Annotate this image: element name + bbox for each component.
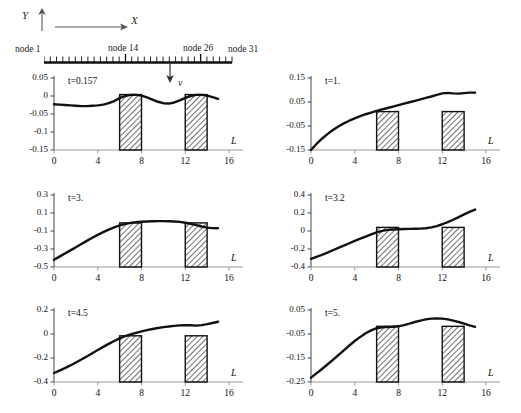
support-block (442, 112, 464, 150)
y-tick-label: 0 (18, 328, 48, 338)
plot-panel: 0.05-0.05-0.15-0.250481216t=5.L (275, 300, 512, 404)
y-tick-label: 0 (275, 225, 305, 235)
node-label-start: node 1 (15, 44, 41, 54)
y-tick-label: -0.15 (275, 352, 305, 362)
y-tick-label: 0.2 (275, 207, 305, 217)
support-block (185, 223, 207, 267)
x-tick-label: 16 (215, 388, 243, 398)
x-tick-label: 4 (84, 156, 112, 166)
y-tick-label: -0.4 (18, 376, 48, 386)
x-axis-title: L (488, 252, 494, 263)
x-tick-label: 12 (171, 273, 199, 283)
y-tick-label: -0.1 (18, 126, 48, 136)
x-axis-title: L (488, 367, 494, 378)
plot-panel: 0.40.20-0.2-0.40481216t=3.2L (275, 185, 512, 289)
x-axis-title: L (231, 135, 237, 146)
panel-time-label: t=1. (325, 76, 340, 86)
y-tick-label: -0.15 (18, 144, 48, 154)
y-tick-label: 0.05 (18, 72, 48, 82)
x-tick-label: 4 (84, 388, 112, 398)
plot-panel: 0.150.05-0.05-0.150481216t=1.L (275, 68, 512, 172)
arrow-up-icon (34, 6, 50, 32)
plot-panel: 0.20-0.2-0.40481216t=4.5L (18, 300, 255, 404)
y-tick-label: 0.3 (18, 189, 48, 199)
panel-time-label: t=3. (68, 193, 83, 203)
x-tick-label: 8 (128, 156, 156, 166)
y-tick-label: -0.05 (18, 108, 48, 118)
support-block (120, 95, 142, 150)
support-block (442, 326, 464, 382)
y-tick-label: 0.05 (275, 304, 305, 314)
x-tick-label: 16 (215, 273, 243, 283)
y-tick-label: -0.05 (275, 120, 305, 130)
global-x-axis-label: X (131, 14, 138, 26)
support-block (377, 227, 399, 267)
x-tick-label: 16 (472, 388, 500, 398)
x-tick-label: 0 (40, 388, 68, 398)
x-axis-title: L (231, 367, 237, 378)
beam-deflection-figure: Y X node 1 node 14 node 26 node 31 v 0.0… (0, 0, 521, 413)
x-axis-title: L (231, 252, 237, 263)
x-tick-label: 8 (128, 273, 156, 283)
panel-time-label: t=0.157 (68, 76, 97, 86)
x-tick-label: 4 (84, 273, 112, 283)
ruler-tick-group (44, 54, 232, 63)
y-tick-label: -0.15 (275, 144, 305, 154)
y-tick-label: -0.2 (18, 352, 48, 362)
x-tick-label: 8 (128, 388, 156, 398)
support-block (377, 326, 399, 382)
panel-time-label: t=5. (325, 308, 340, 318)
y-tick-label: 0 (18, 90, 48, 100)
x-tick-label: 0 (297, 273, 325, 283)
x-tick-label: 8 (385, 388, 413, 398)
support-block (185, 95, 207, 150)
x-tick-label: 12 (171, 388, 199, 398)
x-tick-label: 12 (428, 156, 456, 166)
x-tick-label: 12 (428, 273, 456, 283)
x-tick-label: 0 (40, 273, 68, 283)
x-tick-label: 4 (341, 388, 369, 398)
x-tick-label: 16 (472, 156, 500, 166)
plot-panel: 0.050-0.05-0.1-0.150481216t=0.157L (18, 68, 255, 172)
global-y-axis-label: Y (22, 9, 28, 21)
x-tick-label: 16 (215, 156, 243, 166)
support-block (120, 336, 142, 382)
y-tick-label: -0.05 (275, 328, 305, 338)
support-block (185, 336, 207, 382)
panel-time-label: t=3.2 (325, 193, 345, 203)
x-tick-label: 0 (297, 156, 325, 166)
y-tick-label: -0.3 (18, 243, 48, 253)
support-block (377, 112, 399, 150)
y-tick-label: -0.25 (275, 376, 305, 386)
y-tick-label: 0.15 (275, 72, 305, 82)
support-block (120, 223, 142, 267)
y-tick-label: 0.1 (18, 207, 48, 217)
y-tick-label: -0.2 (275, 243, 305, 253)
x-tick-label: 8 (385, 273, 413, 283)
x-tick-label: 4 (341, 273, 369, 283)
x-tick-label: 12 (428, 388, 456, 398)
x-tick-label: 4 (341, 156, 369, 166)
y-tick-label: -0.4 (275, 261, 305, 271)
y-tick-label: -0.1 (18, 225, 48, 235)
x-tick-label: 16 (472, 273, 500, 283)
x-tick-label: 8 (385, 156, 413, 166)
y-tick-label: 0.4 (275, 189, 305, 199)
y-tick-label: 0.05 (275, 96, 305, 106)
y-tick-label: -0.5 (18, 261, 48, 271)
y-tick-label: 0.2 (18, 304, 48, 314)
plot-panel: 0.30.1-0.1-0.3-0.50481216t=3.L (18, 185, 255, 289)
support-block (442, 227, 464, 267)
node-ruler (44, 52, 234, 68)
x-axis-title: L (488, 135, 494, 146)
x-tick-label: 0 (40, 156, 68, 166)
x-tick-label: 0 (297, 388, 325, 398)
panel-time-label: t=4.5 (68, 308, 88, 318)
arrow-right-icon (55, 20, 130, 34)
x-tick-label: 12 (171, 156, 199, 166)
